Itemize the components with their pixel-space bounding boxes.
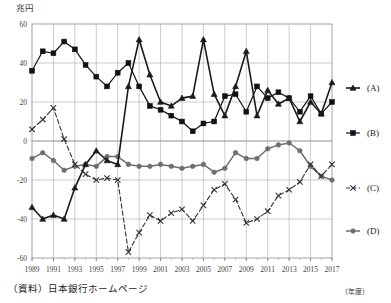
legend-item-C[interactable]: (C) xyxy=(346,183,379,193)
x-axis-tick-label: 1989 xyxy=(25,265,40,274)
data-point-marker xyxy=(233,150,238,155)
data-point-marker xyxy=(40,150,45,155)
x-axis-tick-label: 2015 xyxy=(303,265,318,274)
data-point-marker xyxy=(40,49,45,54)
data-point-marker xyxy=(126,162,131,167)
data-point-marker xyxy=(351,131,356,136)
legend-item-D[interactable]: (D) xyxy=(346,226,380,236)
data-point-marker xyxy=(330,178,335,183)
y-axis-tick-label: -20 xyxy=(17,176,27,185)
data-point-marker xyxy=(351,229,356,234)
data-point-marker xyxy=(265,147,270,152)
data-point-marker xyxy=(287,141,292,146)
data-point-marker xyxy=(72,47,77,52)
x-axis-tick-label: 1995 xyxy=(89,265,104,274)
data-point-marker xyxy=(298,148,303,153)
data-point-marker xyxy=(115,70,120,75)
y-axis-tick-label: 40 xyxy=(20,59,28,68)
data-point-marker xyxy=(223,166,228,171)
data-point-marker xyxy=(51,51,56,56)
x-axis-tick-label: 2009 xyxy=(239,265,254,274)
x-axis-tick-label: 1991 xyxy=(46,265,61,274)
y-axis-tick-label: 0 xyxy=(23,137,27,146)
x-axis-unit-label: （年度） xyxy=(341,286,369,296)
data-point-marker xyxy=(212,170,217,175)
x-axis-tick-label: 2003 xyxy=(175,265,190,274)
data-point-marker xyxy=(201,121,206,126)
data-point-marker xyxy=(169,164,174,169)
x-axis-tick-label: 1993 xyxy=(67,265,82,274)
legend-label-B: (B) xyxy=(367,128,379,138)
legend-label-C: (C) xyxy=(367,183,379,193)
data-point-marker xyxy=(30,68,35,73)
data-point-marker xyxy=(255,156,260,161)
data-point-marker xyxy=(276,90,281,95)
data-point-marker xyxy=(94,164,99,169)
x-axis-tick-label: 1999 xyxy=(132,265,147,274)
data-point-marker xyxy=(308,94,313,99)
data-point-marker xyxy=(51,158,56,163)
data-point-marker xyxy=(147,104,152,109)
data-point-marker xyxy=(190,129,195,134)
data-point-marker xyxy=(330,100,335,105)
data-point-marker xyxy=(158,107,163,112)
data-point-marker xyxy=(137,84,142,89)
data-point-marker xyxy=(190,164,195,169)
data-point-marker xyxy=(212,119,217,124)
x-axis-tick-label: 1997 xyxy=(110,265,125,274)
source-note: （資料）日本銀行ホームページ xyxy=(8,281,148,295)
data-point-marker xyxy=(105,84,110,89)
legend-label-A: (A) xyxy=(367,83,380,93)
x-axis-tick-label: 2013 xyxy=(282,265,297,274)
data-point-marker xyxy=(255,84,260,89)
data-point-marker xyxy=(276,143,281,148)
data-point-marker xyxy=(126,61,131,66)
x-axis-tick-label: 2011 xyxy=(260,265,275,274)
data-point-marker xyxy=(148,164,153,169)
data-point-marker xyxy=(265,96,270,101)
x-axis-tick-label: 2001 xyxy=(153,265,168,274)
y-axis-tick-label: -60 xyxy=(17,254,27,263)
chart-figure: 兆円 6040200-20-40-60198919911993199519971… xyxy=(0,0,391,303)
legend-item-B[interactable]: (B) xyxy=(346,128,379,138)
x-axis-tick-label: 2005 xyxy=(196,265,211,274)
data-point-marker xyxy=(62,168,67,173)
x-axis-tick-label: 2017 xyxy=(325,265,340,274)
data-point-marker xyxy=(297,109,302,114)
data-point-marker xyxy=(94,74,99,79)
line-chart-plot: 6040200-20-40-60198919911993199519971999… xyxy=(0,0,391,303)
y-axis-tick-label: 60 xyxy=(20,20,28,29)
data-point-marker xyxy=(222,94,227,99)
legend-item-A[interactable]: (A) xyxy=(346,83,380,93)
data-point-marker xyxy=(30,156,35,161)
y-axis-tick-label: 20 xyxy=(20,98,28,107)
y-axis-tick-label: -40 xyxy=(17,215,27,224)
data-point-marker xyxy=(180,119,185,124)
data-point-marker xyxy=(244,109,249,114)
data-point-marker xyxy=(244,156,249,161)
data-point-marker xyxy=(83,63,88,68)
data-point-marker xyxy=(158,162,163,167)
data-point-marker xyxy=(169,113,174,118)
data-point-marker xyxy=(62,39,67,44)
x-axis-tick-label: 2007 xyxy=(217,265,232,274)
data-point-marker xyxy=(180,166,185,171)
data-point-marker xyxy=(201,162,206,167)
legend-label-D: (D) xyxy=(367,226,380,236)
data-point-marker xyxy=(137,164,142,169)
